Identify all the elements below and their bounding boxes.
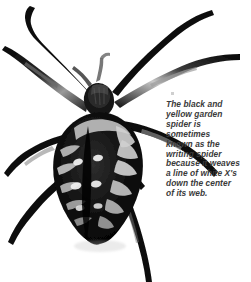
caption-text: The black and yellow garden spider is so…	[166, 100, 246, 199]
spider-photo-page: The black and yellow garden spider is so…	[0, 0, 251, 282]
caption-mark-icon	[171, 92, 174, 95]
spider-shadow	[74, 240, 126, 252]
